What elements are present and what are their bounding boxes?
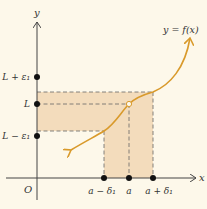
curve-label: y = f(x) [162, 24, 199, 35]
y-axis-label: y [33, 7, 40, 18]
tick-label-a: a [126, 186, 131, 196]
tick-label-L: L [23, 99, 30, 109]
dot-L [34, 101, 40, 107]
diagram-canvas: y x O y = f(x) L + ε₁ L L − ε₁ a − δ₁ a … [0, 0, 207, 209]
epsilon-delta-diagram: y x O y = f(x) L + ε₁ L L − ε₁ a − δ₁ a … [0, 0, 207, 209]
dot-L-plus-epsilon [34, 74, 40, 80]
tick-label-L-plus-epsilon: L + ε₁ [1, 72, 30, 82]
dot-a-plus-delta [150, 175, 156, 181]
tick-label-a-minus-delta: a − δ₁ [88, 186, 116, 196]
x-axis-label: x [199, 172, 205, 183]
tick-label-L-minus-epsilon: L − ε₁ [1, 131, 30, 141]
tick-label-a-plus-delta: a + δ₁ [145, 186, 173, 196]
dot-a [126, 175, 132, 181]
origin-label: O [24, 184, 32, 195]
dot-a-minus-delta [101, 175, 107, 181]
dot-L-minus-epsilon [34, 133, 40, 139]
limit-hole-point [126, 101, 131, 106]
